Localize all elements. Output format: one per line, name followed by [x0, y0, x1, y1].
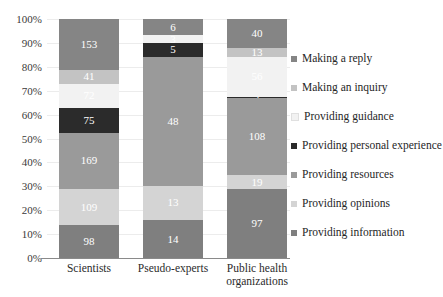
bar-segment-value: 56 — [252, 71, 263, 82]
bar-segment[interactable]: 97 — [227, 189, 287, 258]
bar-pseudo-experts[interactable]: 141348536 — [143, 19, 203, 258]
x-axis-label-3: Public health organizations — [209, 262, 305, 288]
legend-item-label: Providing opinions — [302, 197, 390, 210]
bar-segment-value: 97 — [252, 218, 263, 229]
legend-item[interactable]: Making a reply — [291, 44, 441, 73]
x-axis-label-2: Pseudo-experts — [125, 262, 221, 275]
bar-segment[interactable]: 19 — [227, 175, 287, 189]
y-axis-tick-label: 90% — [0, 38, 42, 48]
bar-segment-value: 169 — [81, 155, 98, 166]
plot-area: 9810916975724115314134853697191082561340 — [47, 19, 290, 258]
bar-segment-value: 108 — [249, 131, 266, 142]
legend-swatch-icon — [291, 85, 297, 91]
y-axis: 0%10%20%30%40%50%60%70%80%90%100% — [0, 12, 46, 264]
legend-item-label: Providing personal experience — [302, 139, 442, 152]
bar-segment-value: 13 — [168, 197, 179, 208]
legend-item[interactable]: Providing personal experience — [291, 131, 441, 160]
bar-segment-value: 75 — [84, 115, 95, 126]
x-axis-category-labels: ScientistsPseudo-expertsPublic health or… — [47, 262, 290, 296]
bar-segment-value: 6 — [170, 22, 176, 33]
bar-segment[interactable]: 72 — [59, 84, 119, 108]
legend-item-label: Making a reply — [302, 52, 372, 65]
legend-item-label: Making an inquiry — [302, 81, 388, 94]
bar-segment[interactable]: 169 — [59, 133, 119, 189]
legend-swatch-icon — [291, 113, 299, 121]
bar-segment-value: 19 — [252, 177, 263, 188]
bar-segment[interactable]: 13 — [143, 186, 203, 221]
legend-item[interactable]: Providing information — [291, 218, 441, 247]
bar-segment-value: 41 — [84, 71, 95, 82]
bar-segment-value: 5 — [170, 44, 176, 55]
bar-segment-value: 72 — [84, 90, 95, 101]
chart-legend: Making a replyMaking an inquiryProviding… — [291, 44, 441, 247]
bar-segment[interactable]: 108 — [227, 98, 287, 175]
legend-item[interactable]: Providing guidance — [291, 102, 441, 131]
stacked-bar-chart: 0%10%20%30%40%50%60%70%80%90%100% 981091… — [0, 0, 443, 297]
bar-segment-value: 153 — [81, 39, 98, 50]
y-axis-tick-label: 70% — [0, 86, 42, 96]
bar-scientists[interactable]: 98109169757241153 — [59, 19, 119, 258]
legend-swatch-icon — [291, 230, 297, 236]
bar-segment-value: 98 — [84, 236, 95, 247]
legend-item-label: Providing resources — [302, 168, 394, 181]
legend-swatch-icon — [291, 143, 297, 149]
bar-segment-value: 40 — [252, 28, 263, 39]
bar-segment[interactable]: 41 — [59, 70, 119, 84]
x-axis-line — [41, 258, 290, 259]
bar-segment[interactable]: 56 — [227, 57, 287, 97]
y-axis-tick-label: 30% — [0, 181, 42, 191]
bar-segment-value: 14 — [168, 234, 179, 245]
y-axis-tick-label: 10% — [0, 229, 42, 239]
bar-segment[interactable]: 40 — [227, 19, 287, 48]
bar-segment[interactable]: 3 — [143, 35, 203, 43]
legend-swatch-icon — [291, 56, 297, 62]
bar-segment[interactable]: 98 — [59, 225, 119, 258]
bar-segment[interactable]: 153 — [59, 19, 119, 70]
bar-segment-value: 13 — [252, 48, 263, 57]
y-axis-tick-label: 0% — [0, 253, 42, 263]
bar-segment[interactable]: 13 — [227, 48, 287, 57]
y-axis-tick-label: 20% — [0, 205, 42, 215]
legend-swatch-icon — [291, 201, 297, 207]
bar-segment[interactable]: 109 — [59, 189, 119, 225]
legend-swatch-icon — [291, 172, 297, 178]
bar-segment-value: 3 — [170, 35, 176, 43]
legend-item-label: Providing guidance — [304, 110, 394, 123]
bar-segment-value: 109 — [81, 202, 98, 213]
x-axis-label-1: Scientists — [41, 262, 137, 275]
bar-segment[interactable]: 14 — [143, 220, 203, 258]
y-axis-tick-label: 100% — [0, 14, 42, 24]
y-axis-tick-label: 40% — [0, 157, 42, 167]
bar-segment[interactable]: 5 — [143, 43, 203, 56]
bar-segment[interactable]: 75 — [59, 108, 119, 133]
legend-item[interactable]: Making an inquiry — [291, 73, 441, 102]
legend-item[interactable]: Providing opinions — [291, 189, 441, 218]
legend-item[interactable]: Providing resources — [291, 160, 441, 189]
y-axis-tick-label: 60% — [0, 110, 42, 120]
bar-segment[interactable]: 48 — [143, 57, 203, 186]
y-axis-tick-label: 50% — [0, 134, 42, 144]
y-axis-tick-label: 80% — [0, 62, 42, 72]
bar-segment[interactable]: 6 — [143, 19, 203, 35]
bar-segment-value: 48 — [168, 116, 179, 127]
legend-item-label: Providing information — [302, 226, 405, 239]
bar-public-health-organizations[interactable]: 97191082561340 — [227, 19, 287, 258]
